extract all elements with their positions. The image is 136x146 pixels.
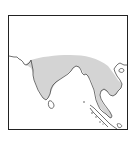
hainan-island bbox=[119, 69, 124, 73]
range-map-canvas bbox=[0, 0, 136, 146]
small-island bbox=[95, 116, 96, 117]
andaman-island bbox=[83, 101, 85, 103]
nicobar-island bbox=[91, 112, 93, 114]
small-island bbox=[102, 123, 103, 124]
range-map bbox=[0, 0, 136, 146]
small-island bbox=[99, 121, 100, 122]
